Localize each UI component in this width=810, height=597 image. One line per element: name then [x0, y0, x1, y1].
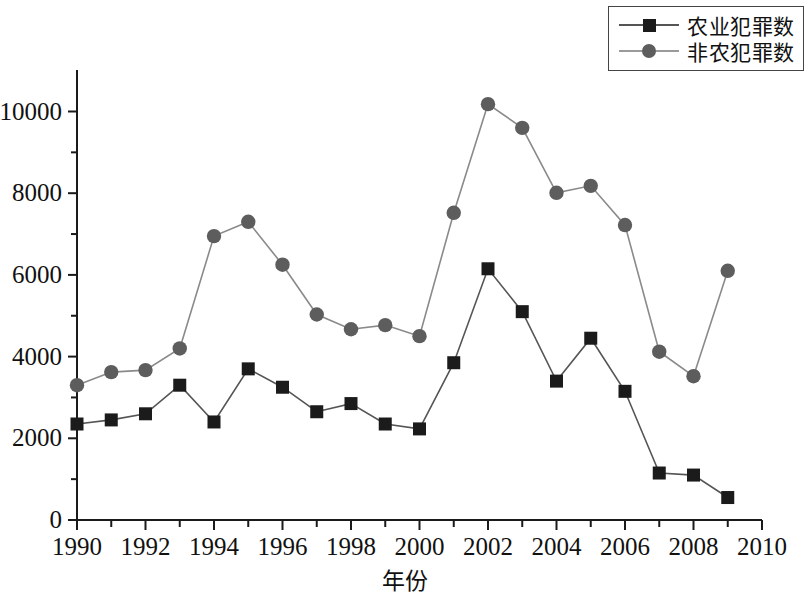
- square-marker: [584, 332, 597, 345]
- y-tick-label: 4000: [12, 343, 62, 370]
- x-tick-label: 2004: [532, 533, 583, 560]
- x-axis-ticks: 1990199219941996199820002002200420062008…: [52, 520, 787, 560]
- y-tick-label: 0: [50, 506, 63, 533]
- circle-marker: [104, 365, 118, 379]
- square-marker: [310, 405, 323, 418]
- circle-marker: [412, 329, 426, 343]
- square-marker: [379, 418, 392, 431]
- x-axis-title: 年份: [0, 562, 810, 596]
- circle-marker: [584, 179, 598, 193]
- square-marker: [447, 356, 460, 369]
- series-line: [77, 104, 728, 385]
- x-tick-label: 2008: [669, 533, 719, 560]
- x-tick-label: 2010: [737, 533, 787, 560]
- square-marker: [482, 262, 495, 275]
- x-tick-label: 1998: [326, 533, 376, 560]
- circle-marker: [721, 264, 735, 278]
- y-tick-label: 6000: [12, 261, 62, 288]
- circle-marker: [515, 121, 529, 135]
- x-tick-label: 1992: [121, 533, 171, 560]
- x-tick-label: 1990: [52, 533, 102, 560]
- circle-marker: [207, 229, 221, 243]
- square-marker: [208, 415, 221, 428]
- chart-axes: [77, 70, 762, 520]
- circle-marker: [310, 307, 324, 321]
- circle-marker: [275, 257, 289, 271]
- chart-figure: 农业犯罪数 非农犯罪数 0200040006000800010000199019…: [0, 0, 810, 597]
- circle-marker: [549, 186, 563, 200]
- square-marker: [721, 491, 734, 504]
- square-marker: [619, 385, 632, 398]
- square-marker: [242, 362, 255, 375]
- circle-marker: [447, 206, 461, 220]
- square-marker: [71, 418, 84, 431]
- square-marker: [139, 407, 152, 420]
- square-marker: [276, 381, 289, 394]
- x-tick-label: 2000: [395, 533, 445, 560]
- circle-marker: [173, 341, 187, 355]
- circle-marker: [344, 322, 358, 336]
- square-marker: [105, 413, 118, 426]
- square-marker: [550, 375, 563, 388]
- y-axis-ticks: 0200040006000800010000: [0, 98, 77, 534]
- plot-area: 0200040006000800010000199019921994199619…: [0, 0, 810, 597]
- series-1: [71, 262, 735, 504]
- x-tick-label: 2002: [463, 533, 513, 560]
- square-marker: [345, 397, 358, 410]
- circle-marker: [686, 369, 700, 383]
- circle-marker: [241, 215, 255, 229]
- circle-marker: [652, 344, 666, 358]
- circle-marker: [481, 97, 495, 111]
- series-2: [70, 97, 735, 392]
- y-tick-label: 8000: [12, 179, 62, 206]
- square-marker: [653, 467, 666, 480]
- circle-marker: [618, 218, 632, 232]
- y-tick-label: 10000: [0, 98, 62, 125]
- square-marker: [173, 379, 186, 392]
- circle-marker: [70, 378, 84, 392]
- square-marker: [687, 469, 700, 482]
- x-tick-label: 1994: [189, 533, 240, 560]
- x-tick-label: 1996: [258, 533, 308, 560]
- circle-marker: [378, 318, 392, 332]
- circle-marker: [138, 363, 152, 377]
- y-tick-label: 2000: [12, 424, 62, 451]
- square-marker: [516, 305, 529, 318]
- square-marker: [413, 422, 426, 435]
- x-tick-label: 2006: [600, 533, 650, 560]
